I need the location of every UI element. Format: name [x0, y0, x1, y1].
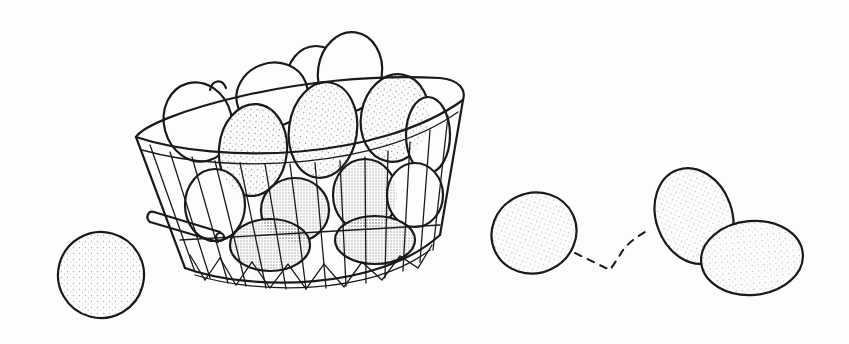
rolling-egg — [478, 179, 590, 288]
eggs-basket-illustration — [0, 0, 849, 344]
loose-egg-left — [42, 216, 159, 333]
motion-trail — [575, 232, 645, 270]
illustration-canvas — [0, 0, 849, 344]
egg-pair-right — [642, 157, 806, 299]
